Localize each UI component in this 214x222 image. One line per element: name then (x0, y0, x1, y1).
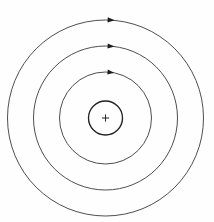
atom-diagram-canvas: + (0, 0, 214, 222)
orbit-arrow-group (107, 17, 115, 75)
nucleus-group: + (89, 101, 123, 135)
atom-diagram-figure: + (0, 0, 214, 222)
orbit-direction-arrow-icon-2 (107, 43, 114, 49)
orbit-direction-arrow-icon-1 (107, 69, 114, 75)
orbit-direction-arrow-icon-3 (108, 17, 115, 23)
